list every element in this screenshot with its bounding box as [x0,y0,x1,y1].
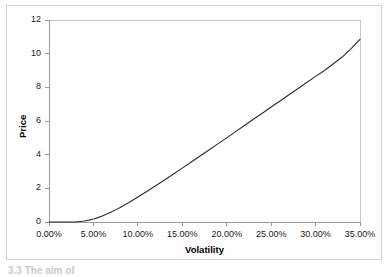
page-footer-fragment: 3.3 The aim of [8,266,208,276]
y-tick-label: 10 [7,48,41,58]
chart-axes [49,20,360,222]
y-tick-label: 4 [7,149,41,159]
x-tick-label: 10.00% [115,229,161,239]
x-tick-label: 30.00% [293,229,339,239]
x-tick-label: 20.00% [204,229,250,239]
y-axis-title: Price [17,115,28,138]
x-tick-label: 25.00% [248,229,294,239]
x-tick-label: 35.00% [337,229,383,239]
x-axis-ticks [49,222,360,226]
y-tick-label: 8 [7,81,41,91]
y-tick-label: 12 [7,14,41,24]
x-axis-title: Volatility [105,244,305,255]
y-axis-ticks [45,20,49,222]
x-tick-label: 15.00% [159,229,205,239]
price-volatility-curve [49,39,360,222]
y-tick-label: 2 [7,182,41,192]
x-tick-label: 5.00% [70,229,116,239]
y-tick-label: 0 [7,216,41,226]
chart-figure: 024681012 0.00%5.00%10.00%15.00%20.00%25… [0,0,389,277]
x-tick-label: 0.00% [26,229,72,239]
